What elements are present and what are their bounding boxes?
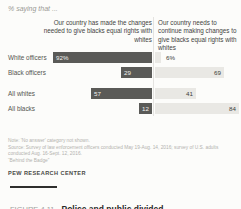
bar-continue-changes: 6% — [155, 52, 161, 63]
bar-value-label: 12 — [142, 103, 149, 114]
bar-continue-changes: 84 — [155, 103, 239, 114]
bar-value-label: 6% — [166, 52, 175, 63]
figure-title: Police and public divided — [61, 204, 163, 209]
bar-made-changes: 57 — [91, 88, 152, 99]
bar-continue-changes: 41 — [155, 88, 196, 99]
category-label: Black officers — [8, 67, 46, 78]
source-text: Source: Survey of law enforcement office… — [8, 145, 238, 158]
pew-research-center-brand: PEW RESEARCH CENTER — [8, 170, 86, 176]
bar-continue-changes: 69 — [155, 67, 224, 78]
bar-made-changes: 29 — [121, 67, 152, 78]
category-label: White officers — [8, 52, 47, 63]
note-text: Note: 'No answer' category not shown. — [8, 138, 238, 145]
bar-made-changes: 12 — [139, 103, 152, 114]
credit-text: “Behind the Badge” — [8, 158, 238, 165]
figure-number: FIGURE 4.11 — [10, 205, 54, 209]
bar-made-changes: 92% — [53, 52, 152, 63]
caption-rule — [10, 186, 57, 188]
footer-notes: Note: 'No answer' category not shown. So… — [8, 138, 238, 164]
bar-value-label: 29 — [124, 67, 131, 78]
bar-value-label: 41 — [186, 88, 193, 99]
figure-caption: FIGURE 4.11Police and public divided — [10, 198, 164, 209]
category-label: All blacks — [8, 103, 35, 114]
bar-value-label: 92% — [56, 52, 68, 63]
category-label: All whites — [8, 88, 35, 99]
bar-value-label: 84 — [229, 103, 236, 114]
bar-chart: White officers92%6%Black officers2969All… — [0, 0, 241, 130]
bar-value-label: 57 — [94, 88, 101, 99]
bar-value-label: 69 — [214, 67, 221, 78]
